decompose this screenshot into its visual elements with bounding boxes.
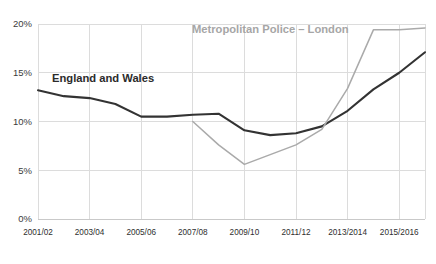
y-axis-tick-label: 20% — [13, 18, 33, 29]
line-chart: 0%5%10%15%20% 2001/022003/042005/062007/… — [0, 0, 436, 264]
y-axis-tick-label: 0% — [18, 213, 32, 224]
series-lines — [38, 28, 425, 165]
y-axis-tick-label: 5% — [18, 165, 32, 176]
series-line — [193, 28, 425, 165]
x-axis-tick-label: 2011/12 — [282, 228, 311, 237]
x-axis-tick-label: 2001/02 — [23, 228, 53, 237]
x-axis-tick-label: 2009/10 — [230, 228, 260, 237]
x-axis-tick-label: 2005/06 — [126, 228, 156, 237]
x-axis-tick-label: 2015/2016 — [380, 228, 419, 237]
series-label: England and Wales — [52, 72, 154, 84]
x-axis-tick-labels: 2001/022003/042005/062007/082009/102011/… — [23, 228, 419, 237]
series-label: Metropolitan Police – London — [192, 23, 349, 35]
x-axis-tick-label: 2003/04 — [75, 228, 105, 237]
series-annotations: England and WalesMetropolitan Police – L… — [52, 23, 349, 84]
y-axis-tick-labels: 0%5%10%15%20% — [13, 18, 33, 224]
y-axis-tick-label: 15% — [13, 67, 33, 78]
x-axis-tick-label: 2013/2014 — [328, 228, 367, 237]
y-axis-tick-label: 10% — [13, 116, 33, 127]
series-line — [38, 52, 425, 135]
x-axis-tick-label: 2007/08 — [178, 228, 208, 237]
chart-container: 0%5%10%15%20% 2001/022003/042005/062007/… — [0, 0, 436, 264]
